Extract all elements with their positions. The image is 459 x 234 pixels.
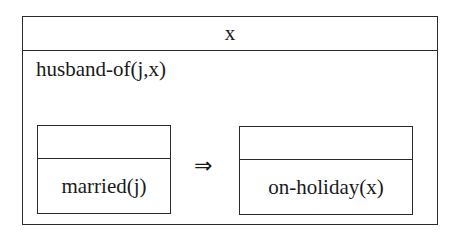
- consequent-drs-box: on-holiday(x): [239, 126, 413, 215]
- consequent-universe-header: [240, 127, 412, 160]
- antecedent-universe-header: [38, 126, 170, 159]
- antecedent-drs-box: married(j): [37, 125, 171, 214]
- husband-of-condition: husband-of(j,x): [36, 57, 166, 82]
- outer-universe-label: x: [225, 21, 236, 46]
- implication-arrow-icon: ⇒: [194, 152, 212, 180]
- consequent-conditions: on-holiday(x): [240, 160, 412, 214]
- married-condition: married(j): [61, 174, 146, 199]
- outer-universe-header: x: [23, 17, 437, 51]
- on-holiday-condition: on-holiday(x): [268, 175, 383, 200]
- antecedent-conditions: married(j): [38, 159, 170, 213]
